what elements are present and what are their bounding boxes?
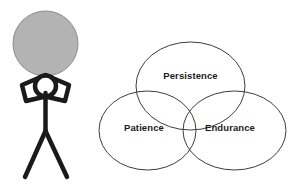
- venn-diagram: Persistence Patience Endurance: [0, 0, 296, 186]
- venn-circle-persistence[interactable]: [136, 42, 245, 130]
- venn-label-endurance: Endurance: [205, 122, 255, 133]
- venn-label-patience: Patience: [124, 122, 164, 133]
- illustration-canvas: Persistence Patience Endurance: [0, 0, 296, 186]
- venn-label-persistence: Persistence: [163, 70, 217, 81]
